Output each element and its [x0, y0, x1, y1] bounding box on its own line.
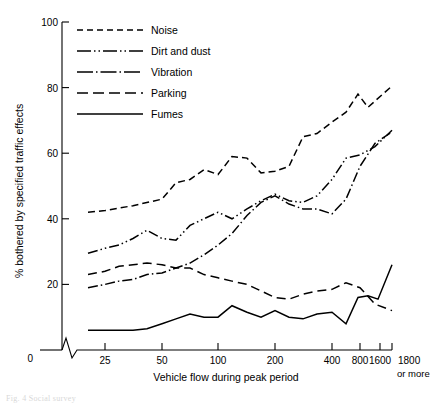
legend-label-vibration: Vibration [151, 66, 192, 78]
chart-container: 100 80 60 40 20 0 % bothered by specifie… [0, 0, 434, 405]
y-axis: 100 80 60 40 20 0 % bothered by specifie… [13, 17, 69, 364]
x-axis-break-and-line [62, 338, 392, 358]
legend-label-fumes: Fumes [151, 108, 183, 120]
x-axis-title: Vehicle flow during peak period [153, 371, 299, 383]
x-tick-label-50: 50 [156, 355, 168, 366]
series-group [88, 86, 392, 330]
y-tick-label-20: 20 [47, 279, 59, 290]
y-tick-label-60: 60 [47, 148, 59, 159]
series-line-parking [88, 263, 392, 311]
y-axis-title: % bothered by specified traffic effects [13, 104, 25, 278]
x-axis: 25 50 100 200 400 800 1600 1800 or more … [40, 338, 430, 383]
series-line-noise [88, 86, 392, 212]
line-chart-svg: 100 80 60 40 20 0 % bothered by specifie… [0, 0, 434, 405]
y-tick-label-100: 100 [41, 17, 58, 28]
x-tick-label-100: 100 [210, 355, 227, 366]
y-tick-label-80: 80 [47, 83, 59, 94]
x-tick-label-800: 800 [352, 355, 369, 366]
series-line-fumes [88, 265, 392, 331]
x-tick-label-200: 200 [267, 355, 284, 366]
legend-label-dirt-and-dust: Dirt and dust [151, 45, 211, 57]
legend-label-noise: Noise [151, 24, 178, 36]
x-tick-label-400: 400 [324, 355, 341, 366]
x-tick-label-25: 25 [99, 355, 111, 366]
x-tick-label-1800: 1800 [398, 355, 421, 366]
series-line-dirt-and-dust [88, 130, 392, 253]
caption-ghost-text: Fig. 4 Social survey [6, 394, 76, 403]
x-tick-label-1600: 1600 [369, 355, 392, 366]
y-tick-label-0: 0 [27, 353, 33, 364]
x-axis-or-more-note: or more [397, 368, 430, 379]
legend: Noise Dirt and dust Vibration Parking Fu… [77, 24, 211, 120]
y-tick-label-40: 40 [47, 214, 59, 225]
legend-label-parking: Parking [151, 87, 187, 99]
